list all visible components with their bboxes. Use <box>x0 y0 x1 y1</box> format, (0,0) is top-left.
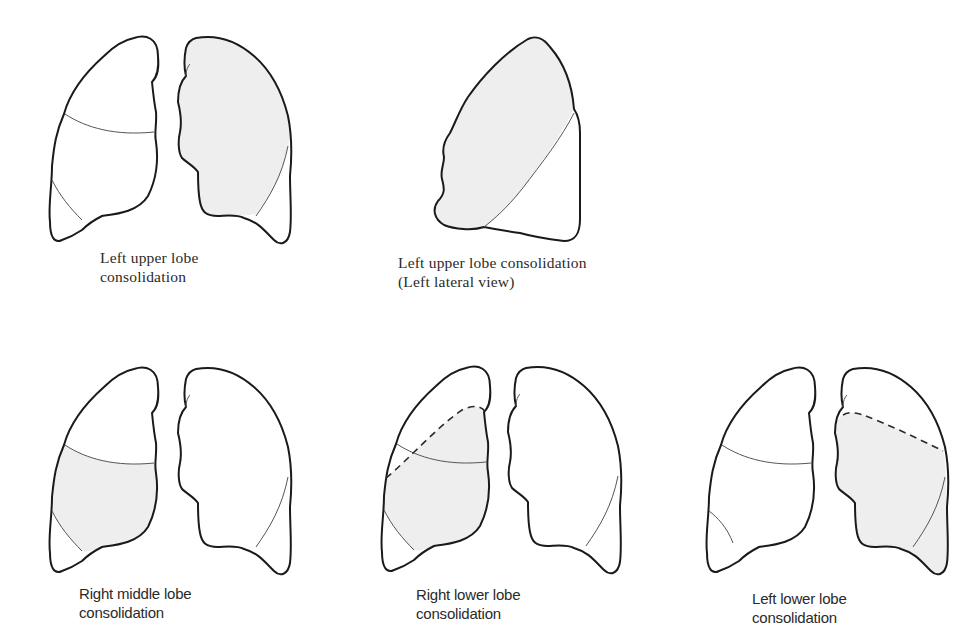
caption-right-middle-lobe: Right middle lobe consolidation <box>79 584 192 622</box>
right-lung <box>49 37 158 241</box>
oblique-fissure <box>709 511 733 543</box>
caption-line-2: (Left lateral view) <box>398 272 587 291</box>
right-lung <box>49 368 158 572</box>
caption-line-2: consolidation <box>79 603 192 622</box>
consolidation-shading <box>835 413 949 574</box>
caption-left-lower-lobe: Left lower lobe consolidation <box>752 589 847 627</box>
caption-right-lower-lobe: Right lower lobe consolidation <box>416 585 520 623</box>
lung-consolidation-figure: Left upper lobe consolidation Left upper… <box>0 0 970 642</box>
caption-line-2: consolidation <box>416 604 520 623</box>
caption-left-upper-lobe-frontal: Left upper lobe consolidation <box>100 248 199 286</box>
panel-left-lower-lobe <box>706 368 948 575</box>
oblique-fissure <box>52 180 82 220</box>
caption-line-2: consolidation <box>752 608 847 627</box>
right-lung <box>706 368 815 572</box>
lung-diagrams <box>0 0 970 642</box>
panel-right-lower-lobe <box>381 367 621 574</box>
caption-line-2: consolidation <box>100 267 199 286</box>
horizontal-fissure <box>722 445 811 464</box>
caption-left-upper-lobe-lateral: Left upper lobe consolidation (Left late… <box>398 253 587 291</box>
caption-line-1: Right lower lobe <box>416 585 520 604</box>
panel-right-middle-lobe <box>49 368 291 575</box>
right-lung <box>381 367 490 571</box>
panel-left-upper-lobe-frontal <box>49 37 291 244</box>
horizontal-fissure <box>65 114 154 133</box>
oblique-fissure <box>586 476 618 546</box>
caption-line-1: Left lower lobe <box>752 589 847 608</box>
caption-line-1: Left upper lobe <box>100 248 199 267</box>
left-lung <box>178 37 291 243</box>
caption-line-1: Left upper lobe consolidation <box>398 253 587 272</box>
left-lung <box>508 367 621 573</box>
consolidation-shading <box>435 37 574 229</box>
left-lung <box>178 368 291 574</box>
caption-line-1: Right middle lobe <box>79 584 192 603</box>
oblique-fissure <box>256 477 288 547</box>
left-lung <box>835 368 949 574</box>
panel-left-upper-lobe-lateral <box>435 37 580 241</box>
consolidation-shading <box>384 406 489 550</box>
